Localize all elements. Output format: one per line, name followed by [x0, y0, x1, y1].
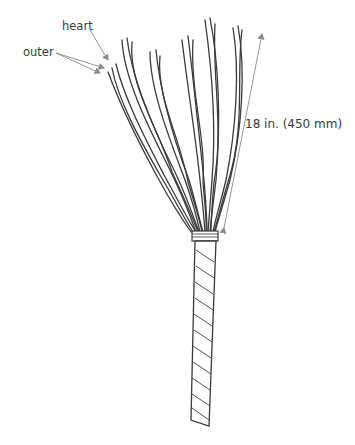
rope-illustration — [0, 0, 355, 445]
heart-label: heart — [62, 19, 93, 33]
dimension-label: 18 in. (450 mm) — [245, 117, 342, 131]
dimension-arrow — [224, 34, 262, 228]
leader-arrows — [56, 30, 108, 73]
strands — [108, 18, 242, 232]
whipping-band — [192, 231, 218, 241]
heart-arrow — [90, 30, 108, 60]
outer-arrow-1 — [56, 53, 104, 68]
laid-rope — [191, 241, 216, 426]
outer-arrow-2 — [56, 53, 100, 73]
outer-label: outer — [23, 45, 54, 59]
